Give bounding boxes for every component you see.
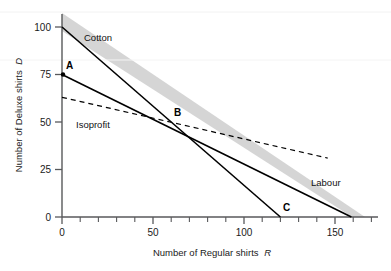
point-a-marker <box>61 72 65 76</box>
x-tick-label-50: 50 <box>147 227 159 238</box>
y-tick-label-100: 100 <box>34 22 51 33</box>
series-label-labour: Labour <box>311 177 341 188</box>
y-tick-label-50: 50 <box>40 117 52 128</box>
y-axis-title-text: Number of Deluxe shirts <box>13 70 24 172</box>
series-label-isoprofit: Isoprofit <box>76 119 110 130</box>
labour-constraint-line <box>62 75 351 218</box>
series-label-cotton: Cotton <box>84 32 112 43</box>
point-label-c: C <box>283 202 290 213</box>
y-axis-ticks <box>55 27 62 217</box>
point-label-b: B <box>174 107 181 118</box>
point-label-a: A <box>66 60 73 71</box>
x-tick-label-100: 100 <box>236 227 253 238</box>
y-axis-title-symbol: D <box>13 58 24 65</box>
y-axis-title: Number of Deluxe shirts D <box>13 58 24 173</box>
x-axis-minor-ticks <box>80 217 371 222</box>
y-tick-label-25: 25 <box>40 164 52 175</box>
shirts-production-chart: 100 75 50 25 0 0 <box>0 0 391 271</box>
x-tick-label-150: 150 <box>327 227 344 238</box>
chart-container: 100 75 50 25 0 0 <box>0 0 391 271</box>
x-tick-label-0: 0 <box>59 227 65 238</box>
y-tick-label-75: 75 <box>40 69 52 80</box>
svg-text:Number of Regular shirts: Number of Regular shirts R <box>153 247 271 258</box>
y-tick-label-0: 0 <box>45 212 51 223</box>
x-axis-title-symbol: R <box>264 247 271 258</box>
x-axis-title-text: Number of Regular shirts <box>153 247 259 258</box>
x-axis-title: Number of Regular shirts R <box>153 247 271 258</box>
svg-text:Number of Deluxe shirts: Number of Deluxe shirts D <box>13 58 24 173</box>
x-axis-major-ticks <box>62 217 335 224</box>
